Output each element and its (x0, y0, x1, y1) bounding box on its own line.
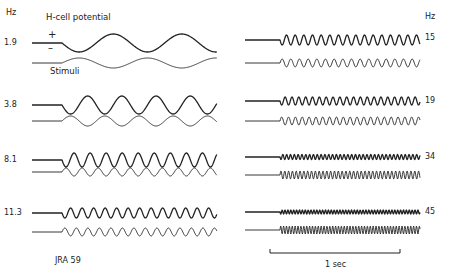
freq-label-11-3: 11.3 (4, 208, 22, 217)
trace-plot (0, 0, 450, 278)
freq-label-45: 45 (425, 207, 435, 216)
stimulus-trace-19 (245, 117, 420, 125)
freq-label-34: 34 (425, 152, 435, 161)
response-trace-11.3 (32, 208, 217, 218)
freq-label-3-8: 3.8 (4, 100, 17, 109)
response-trace-8.1 (32, 153, 217, 167)
units-label-left: Hz (6, 8, 16, 17)
response-trace-15 (245, 35, 420, 45)
units-label-right: Hz (425, 12, 435, 21)
response-trace-19 (245, 97, 420, 105)
figure: Hz H-cell potential + – Stimuli 1.9 3.8 … (0, 0, 450, 278)
response-trace-34 (245, 155, 420, 160)
scale-bar (270, 249, 400, 253)
freq-label-1-9: 1.9 (4, 38, 17, 47)
stimulus-trace-15 (245, 59, 420, 67)
stimulus-trace-label: Stimuli (50, 66, 79, 76)
specimen-label: JRA 59 (55, 256, 81, 265)
stimulus-trace-8.1 (32, 168, 217, 176)
polarity-minus: – (48, 42, 53, 53)
scale-bar-label: 1 sec (325, 260, 346, 269)
freq-label-19: 19 (425, 96, 435, 105)
stimulus-trace-11.3 (32, 228, 217, 236)
polarity-plus: + (48, 29, 56, 40)
freq-label-15: 15 (425, 33, 435, 42)
stimulus-trace-3.8 (32, 116, 217, 126)
response-trace-1.9 (32, 34, 217, 52)
response-trace-45 (245, 210, 420, 214)
freq-label-8-1: 8.1 (4, 155, 17, 164)
response-trace-label: H-cell potential (46, 12, 111, 22)
stimulus-trace-34 (245, 171, 420, 179)
stimulus-trace-45 (245, 226, 420, 234)
response-trace-3.8 (32, 96, 217, 114)
